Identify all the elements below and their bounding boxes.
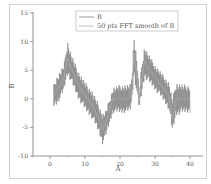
legend-label-b: B [97, 13, 102, 21]
x-tick-label: 30 [151, 160, 159, 167]
y-tick-label: -10 [18, 152, 28, 159]
y-axis-title: B [8, 83, 16, 88]
y-tick-label: 15 [20, 9, 28, 16]
legend: B 50 pts FFT smooth of B [76, 11, 178, 31]
y-tick-label: 0 [24, 95, 28, 102]
y-tick-label: -5 [22, 123, 28, 130]
x-axis-title: A [114, 165, 121, 173]
series-group [54, 40, 191, 144]
x-tick-label: 40 [186, 160, 194, 167]
legend-label-smooth: 50 pts FFT smooth of B [97, 22, 175, 30]
x-ticks: 010203040 [33, 156, 194, 167]
x-tick-label: 0 [48, 160, 52, 167]
y-tick-label: 5 [24, 66, 28, 73]
series-b-line [54, 40, 191, 144]
x-tick-label: 10 [81, 160, 89, 167]
y-tick-label: 10 [20, 38, 28, 45]
y-ticks: -10-5051015 [18, 9, 33, 159]
line-chart: -10-5051015 010203040 A B B 50 pts FFT s… [0, 0, 211, 184]
